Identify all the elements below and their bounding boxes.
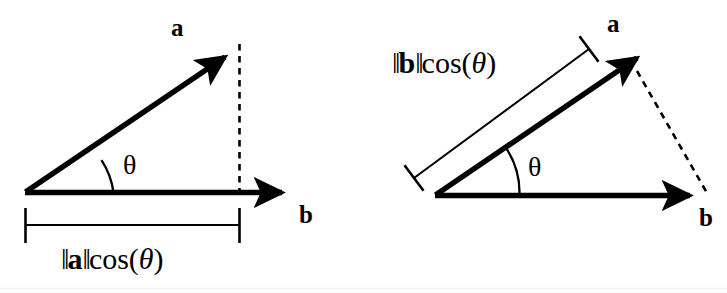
- left-projection-measure-label: ‖a‖cos(θ): [61, 244, 164, 274]
- left-norm-cos: cos(: [89, 242, 139, 275]
- left-vector-b-label: b: [299, 202, 313, 227]
- left-vector-a-label: a: [171, 15, 184, 40]
- left-angle-theta-label: θ: [123, 151, 136, 179]
- left-norm-paren-close: ): [154, 242, 164, 275]
- left-angle-arc: [102, 160, 114, 192]
- right-vector-b-label: b: [699, 205, 713, 230]
- right-vector-a-label: a: [607, 11, 620, 36]
- right-projection-dashed-line: [637, 71, 707, 193]
- right-norm-cos: cos(: [422, 46, 472, 79]
- vector-projection-figure: a b θ ‖a‖cos(θ) a b θ ‖b‖cos(θ): [0, 0, 727, 293]
- right-angle-theta-label: θ: [528, 153, 541, 181]
- left-norm-vector: a: [67, 242, 82, 275]
- right-norm-paren-close: ): [486, 46, 496, 79]
- left-panel-group: [25, 44, 282, 243]
- right-norm-theta: θ: [472, 46, 487, 79]
- right-angle-arc: [506, 147, 520, 196]
- right-norm-vector: b: [398, 46, 415, 79]
- right-projection-measure-label: ‖b‖cos(θ): [392, 48, 496, 78]
- left-norm-theta: θ: [139, 242, 154, 275]
- left-measure-bracket: [25, 208, 240, 243]
